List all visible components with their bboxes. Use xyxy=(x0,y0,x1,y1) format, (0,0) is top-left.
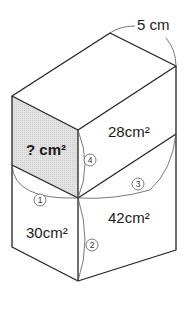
prism-diagram: 5 cm ? cm² 28cm² 30cm² 42cm² 1 2 3 4 xyxy=(0,0,190,312)
face-label-28: 28cm² xyxy=(108,123,150,140)
marker-3: 3 xyxy=(132,178,144,190)
dimension-label: 5 cm xyxy=(137,16,170,33)
svg-text:4: 4 xyxy=(88,155,93,165)
svg-text:3: 3 xyxy=(136,179,141,189)
marker-2: 2 xyxy=(86,239,98,251)
unknown-face-label: ? cm² xyxy=(26,141,66,158)
face-label-30: 30cm² xyxy=(26,224,68,241)
svg-text:1: 1 xyxy=(38,195,43,205)
marker-1: 1 xyxy=(34,194,46,206)
marker-4: 4 xyxy=(84,154,96,166)
face-label-42: 42cm² xyxy=(108,209,150,226)
svg-text:2: 2 xyxy=(90,240,95,250)
